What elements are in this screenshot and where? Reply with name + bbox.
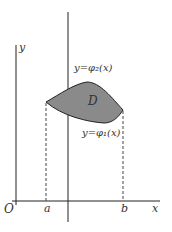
origin-label: O <box>4 202 14 216</box>
lower-curve-label: y=φ₁(x) <box>82 127 120 138</box>
a-label: a <box>44 202 51 215</box>
b-label: b <box>121 202 128 215</box>
x-axis-label: x <box>152 202 158 215</box>
diagram: y x O a b D y=φ₂(x) y=φ₁(x) <box>0 0 172 232</box>
region-label: D <box>88 94 98 108</box>
diagram-canvas <box>0 0 172 232</box>
upper-curve-label: y=φ₂(x) <box>74 62 112 73</box>
region-d <box>46 82 123 123</box>
y-axis-label: y <box>19 41 25 54</box>
